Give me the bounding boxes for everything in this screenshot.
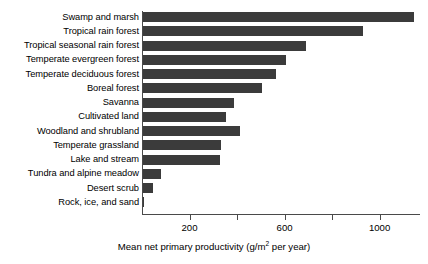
bar bbox=[143, 26, 363, 36]
category-label: Tropical seasonal rain forest bbox=[0, 40, 139, 50]
category-label: Boreal forest bbox=[0, 83, 139, 93]
plot-area bbox=[142, 11, 420, 214]
x-axis-tick-label: 600 bbox=[277, 222, 293, 233]
x-axis-tick bbox=[285, 215, 286, 220]
x-axis-tick bbox=[332, 215, 333, 220]
category-label: Tropical rain forest bbox=[0, 26, 139, 36]
category-label: Woodland and shrubland bbox=[0, 126, 139, 136]
category-label: Lake and stream bbox=[0, 154, 139, 164]
x-axis-tick bbox=[237, 215, 238, 220]
x-axis-title: Mean net primary productivity (g/m2 per … bbox=[0, 241, 428, 253]
category-label: Temperate grassland bbox=[0, 140, 139, 150]
x-axis-tick-label: 200 bbox=[182, 222, 198, 233]
bar bbox=[143, 126, 240, 136]
x-axis-tick bbox=[190, 215, 191, 220]
bar-chart: Swamp and marshTropical rain forestTropi… bbox=[0, 0, 428, 264]
x-axis-tick-label: 1000 bbox=[369, 222, 390, 233]
category-label: Rock, ice, and sand bbox=[0, 197, 139, 207]
category-label: Temperate deciduous forest bbox=[0, 69, 139, 79]
bar bbox=[143, 83, 262, 93]
category-label: Cultivated land bbox=[0, 111, 139, 121]
bar bbox=[143, 12, 414, 22]
category-label: Tundra and alpine meadow bbox=[0, 168, 139, 178]
bar bbox=[143, 197, 144, 207]
bar bbox=[143, 98, 234, 108]
bar bbox=[143, 183, 153, 193]
bar bbox=[143, 155, 220, 165]
category-label: Desert scrub bbox=[0, 183, 139, 193]
x-axis-line bbox=[142, 214, 420, 215]
bar bbox=[143, 41, 306, 51]
bar bbox=[143, 169, 161, 179]
bar bbox=[143, 140, 221, 150]
category-axis-labels: Swamp and marshTropical rain forestTropi… bbox=[0, 11, 139, 211]
x-axis-title-superscript: 2 bbox=[265, 240, 269, 247]
bar bbox=[143, 69, 276, 79]
category-label: Swamp and marsh bbox=[0, 12, 139, 22]
bar bbox=[143, 112, 226, 122]
bar bbox=[143, 55, 286, 65]
category-label: Temperate evergreen forest bbox=[0, 54, 139, 64]
category-label: Savanna bbox=[0, 97, 139, 107]
x-axis-tick bbox=[380, 215, 381, 220]
